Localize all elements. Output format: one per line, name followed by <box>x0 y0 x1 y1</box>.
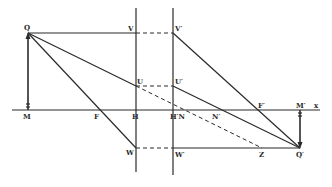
label-h: H <box>132 112 139 121</box>
label-n-prime: N′ <box>212 112 220 121</box>
label-q-prime: Q′ <box>296 150 304 159</box>
label-f: F <box>94 112 99 121</box>
label-w: W <box>125 148 134 157</box>
label-m-prime: M′ <box>296 101 306 110</box>
ray-nodal-object <box>28 33 136 86</box>
label-q: Q <box>24 23 30 32</box>
label-m: M <box>23 112 31 121</box>
label-z: Z <box>259 150 264 159</box>
label-u: U <box>137 77 143 86</box>
construction-line-nz <box>136 86 262 148</box>
label-x: x <box>314 101 319 110</box>
label-w-prime: W′ <box>174 150 185 159</box>
label-v: V <box>127 24 134 33</box>
ray-parallel-image <box>173 33 300 148</box>
label-v-prime: V′ <box>174 24 182 33</box>
label-h-prime-n: H′N <box>170 112 185 121</box>
ray-focal-object <box>28 33 136 148</box>
label-f-prime: F′ <box>258 101 265 110</box>
ray-nodal-image <box>173 86 300 148</box>
ray-diagram: Q V V′ U U′ M F H H′N N′ F′ M′ x W W′ Z … <box>0 0 332 187</box>
label-u-prime: U′ <box>175 77 183 86</box>
